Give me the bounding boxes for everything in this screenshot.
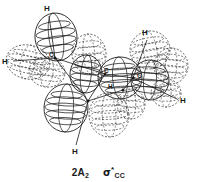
- orbital-drawing-canvas: [0, 0, 197, 182]
- atom-label-c-right: C: [137, 73, 142, 80]
- lobe-rightupper-dashed-latitude-4: [136, 54, 167, 65]
- lobe-midupper-dashed-latitude-3: [73, 52, 106, 63]
- lobe-rightupper-dashed-outline: [127, 28, 173, 72]
- atom-label-h-top-right: H: [142, 29, 148, 37]
- lobe-bottommid-dashed-latitude-3: [119, 108, 142, 113]
- lobe-left-dashed: [3, 41, 53, 83]
- lobe-rightupper-dashed: [127, 28, 173, 72]
- figure-caption: 2A2 σ*CC: [0, 168, 197, 178]
- atom-label-h-top-left: H: [44, 5, 50, 13]
- atom-label-h-center: H: [108, 84, 113, 91]
- lobe-rightfar-dashed-latitude-1: [159, 53, 186, 61]
- lobe-bottomleft-solid-latitude-5: [49, 117, 81, 126]
- lobe-rightlow-dashed-meridian: [161, 79, 171, 107]
- lobe-midupper-dashed-latitude-2: [72, 45, 105, 56]
- lobe-rightupper-dashed-latitude-1: [133, 35, 164, 46]
- lobe-bottommid-dashed-latitude-2: [118, 101, 145, 107]
- lobe-bottomright-dashed-meridian: [101, 93, 117, 138]
- lobe-bottomright-dashed-latitude-5: [95, 123, 124, 131]
- bond-c-left-to-c-lower: [55, 58, 88, 101]
- caption-orbital-label: σ*CC: [103, 168, 125, 178]
- atom-label-h-bottom: H: [72, 148, 78, 156]
- lobe-bottomleft-solid-outline: [43, 83, 89, 133]
- lobe-rightupper-dashed-latitude-2: [130, 40, 168, 54]
- lobe-bottommid-dashed-outline: [117, 89, 145, 119]
- caption-orbital-subscript: CC: [114, 172, 125, 179]
- lobe-leftlow-dashed-meridian: [39, 56, 55, 87]
- atom-label-h-right: H: [180, 97, 186, 105]
- atom-label-h-left: H: [2, 58, 8, 66]
- atom-label-c-center: C: [104, 68, 109, 75]
- atom-label-c-left: C: [49, 52, 54, 59]
- lobe-upper-left-solid: [32, 10, 80, 63]
- molecular-orbital-figure: HHHHHHCCC 2A2 σ*CC: [0, 0, 197, 182]
- lobe-midleft-solid-meridian: [79, 55, 94, 94]
- lobe-upper-left-solid-latitude-2: [35, 26, 75, 41]
- orbital-lobes-group: [3, 10, 190, 138]
- caption-symmetry-text: 2A: [72, 167, 85, 178]
- nucleus-c-mid: [122, 89, 125, 92]
- lobe-bottommid-dashed: [117, 89, 145, 119]
- nucleus-c-lower: [87, 100, 90, 103]
- lobe-bottommid-dashed-meridian: [126, 89, 136, 119]
- lobe-left-dashed-outline: [3, 41, 53, 83]
- lobe-upper-left-solid-latitude-1: [38, 19, 71, 31]
- caption-symmetry-label: 2A2: [72, 168, 89, 178]
- lobe-midleft-solid-latitude-1: [74, 60, 99, 69]
- lobe-bottomleft-solid: [43, 83, 89, 133]
- nucleus-c-right: [132, 77, 135, 80]
- lobe-midupper-dashed-latitude-1: [75, 40, 102, 49]
- lobe-rightupper-dashed-latitude-3: [131, 46, 169, 60]
- sigma-icon: σ: [103, 167, 111, 178]
- lobe-rightfar-dashed-latitude-4: [157, 71, 184, 79]
- lobe-left-dashed-meridian: [17, 44, 39, 80]
- lobe-upper-left-solid-outline: [32, 10, 80, 63]
- caption-symmetry-subscript: 2: [85, 172, 89, 179]
- lobe-upper-left-solid-latitude-3: [36, 33, 76, 48]
- lobe-upper-left-solid-latitude-4: [41, 43, 74, 55]
